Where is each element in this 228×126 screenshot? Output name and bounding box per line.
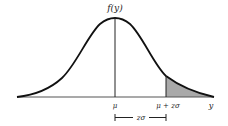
mu-label: μ [113, 102, 118, 110]
zsigma-label: zσ [136, 114, 146, 122]
zsigma-bracket: zσ [115, 114, 166, 122]
shaded-tail-area [166, 76, 214, 97]
mu-plus-zsigma-label: μ + zσ [156, 102, 180, 110]
fy-label: f(y) [106, 3, 123, 13]
y-axis-label: y [208, 101, 214, 110]
normal-distribution-figure: f(y) μ μ + zσ y zσ [0, 0, 228, 126]
